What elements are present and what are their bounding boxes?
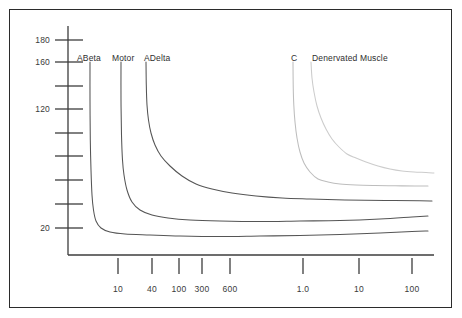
x-axis-label-5-1-0: 1.0	[297, 284, 309, 294]
chart-canvas	[0, 0, 462, 318]
x-axis-label-6-10: 10	[354, 284, 364, 294]
curve-label-denervated-muscle: Denervated Muscle	[312, 53, 388, 63]
x-axis-label-4-600: 600	[223, 284, 238, 294]
curve-denervated-muscle	[311, 62, 434, 173]
curves-group	[90, 62, 434, 237]
x-axis-label-7-100: 100	[405, 284, 420, 294]
y-axis-label-180: 180	[22, 35, 50, 45]
curve-c	[293, 62, 428, 186]
tick-marks-group	[55, 40, 412, 274]
chart-figure: 18016012020 10401003006001.010100 ABetaM…	[0, 0, 462, 318]
x-axis-label-1-40: 40	[147, 284, 157, 294]
curve-label-c: C	[291, 53, 297, 63]
curve-adelta	[146, 62, 432, 201]
curve-label-motor: Motor	[112, 53, 134, 63]
y-axis-label-120: 120	[22, 104, 50, 114]
y-axis-label-160: 160	[22, 57, 50, 67]
curve-label-abeta: ABeta	[77, 53, 101, 63]
y-axis-label-20: 20	[22, 223, 50, 233]
x-axis-label-2-100: 100	[172, 284, 187, 294]
curve-label-adelta: ADelta	[144, 53, 170, 63]
x-axis-label-3-300: 300	[195, 284, 210, 294]
x-axis-label-0-10: 10	[113, 284, 123, 294]
